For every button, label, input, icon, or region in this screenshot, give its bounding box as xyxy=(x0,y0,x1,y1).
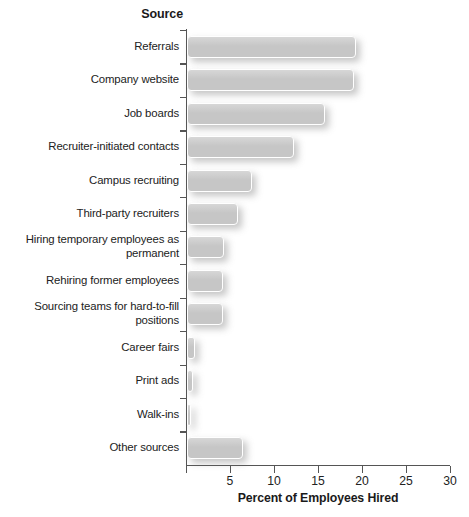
bar xyxy=(187,437,243,459)
bar xyxy=(187,69,354,91)
x-axis-tick-label: 20 xyxy=(355,474,369,488)
bar-row: Third-party recruiters xyxy=(0,197,469,230)
bar xyxy=(187,303,223,325)
category-label: Campus recruiting xyxy=(0,174,179,188)
y-axis-tick xyxy=(180,63,187,64)
bar xyxy=(187,136,294,158)
y-axis-tick xyxy=(180,30,187,31)
y-axis-tick xyxy=(180,164,187,165)
x-axis-tick-label: 30 xyxy=(443,474,457,488)
bar-row: Other sources xyxy=(0,431,469,464)
category-label: Career fairs xyxy=(0,341,179,355)
bar-fill xyxy=(187,36,356,58)
bar-row: Sourcing teams for hard-to-fill position… xyxy=(0,298,469,331)
category-label: Referrals xyxy=(0,40,179,54)
y-axis-tick xyxy=(180,197,187,198)
x-axis-title: Percent of Employees Hired xyxy=(186,491,450,505)
category-label: Rehiring former employees xyxy=(0,274,179,288)
bar-row: Walk-ins xyxy=(0,398,469,431)
category-label: Third-party recruiters xyxy=(0,207,179,221)
bar-row: Hiring temporary employees as permanent xyxy=(0,231,469,264)
bar-fill xyxy=(187,136,294,158)
bar-fill xyxy=(187,404,191,426)
bar-fill xyxy=(187,103,325,125)
y-axis-tick xyxy=(180,231,187,232)
bar xyxy=(187,36,356,58)
category-label: Company website xyxy=(0,73,179,87)
bar xyxy=(187,170,252,192)
x-axis-tick xyxy=(406,466,407,473)
x-axis-tick xyxy=(362,466,363,473)
y-axis-tick xyxy=(180,398,187,399)
bar xyxy=(187,270,223,292)
category-label: Hiring temporary employees as permanent xyxy=(0,234,179,261)
bar xyxy=(187,236,224,258)
bar-fill xyxy=(187,370,193,392)
category-label: Walk-ins xyxy=(0,408,179,422)
bar-fill xyxy=(187,170,252,192)
y-axis-tick xyxy=(180,431,187,432)
y-axis-tick xyxy=(180,130,187,131)
x-axis-tick xyxy=(450,466,451,473)
x-axis-tick xyxy=(318,466,319,473)
y-axis-tick xyxy=(180,298,187,299)
bar-fill xyxy=(187,437,243,459)
x-axis-tick xyxy=(230,466,231,473)
x-axis-tick-label: 10 xyxy=(267,474,281,488)
bar-fill xyxy=(187,303,223,325)
bar xyxy=(187,203,238,225)
bar-fill xyxy=(187,236,224,258)
x-axis-tick xyxy=(274,466,275,473)
bar-row: Referrals xyxy=(0,30,469,63)
bar xyxy=(187,404,191,426)
category-label: Print ads xyxy=(0,374,179,388)
bar-fill xyxy=(187,337,195,359)
x-axis-tick-label: 25 xyxy=(399,474,413,488)
category-label: Recruiter-initiated contacts xyxy=(0,140,179,154)
x-axis-tick-label: 15 xyxy=(311,474,325,488)
y-axis-tick xyxy=(180,264,187,265)
y-axis-tick xyxy=(180,331,187,332)
horizontal-bar-chart: Source ReferralsCompany websiteJob board… xyxy=(0,0,469,517)
bar-row: Campus recruiting xyxy=(0,164,469,197)
bar-row: Rehiring former employees xyxy=(0,264,469,297)
bar-row: Print ads xyxy=(0,365,469,398)
y-axis-tick xyxy=(180,97,187,98)
x-axis-tick-label: 5 xyxy=(227,474,234,488)
bar-row: Career fairs xyxy=(0,331,469,364)
bar xyxy=(187,370,193,392)
y-axis-tick xyxy=(180,365,187,366)
bar-fill xyxy=(187,69,354,91)
bar-fill xyxy=(187,270,223,292)
bar xyxy=(187,103,325,125)
category-label: Other sources xyxy=(0,441,179,455)
category-label: Sourcing teams for hard-to-fill position… xyxy=(0,301,179,328)
x-axis-tick xyxy=(186,466,187,473)
bar-row: Job boards xyxy=(0,97,469,130)
category-axis-title: Source xyxy=(0,7,183,21)
bar-row: Company website xyxy=(0,63,469,96)
bar-fill xyxy=(187,203,238,225)
category-label: Job boards xyxy=(0,107,179,121)
bar-row: Recruiter-initiated contacts xyxy=(0,130,469,163)
bar xyxy=(187,337,195,359)
